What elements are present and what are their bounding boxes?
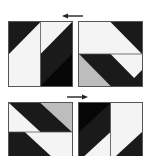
- panel-bottom-right: [78, 102, 143, 156]
- panel-bottom-left: [8, 102, 73, 156]
- panel-top-right: [78, 21, 143, 87]
- left-arrow-icon: [62, 13, 84, 19]
- right-arrow-icon: [66, 94, 88, 100]
- panel-top-left: [8, 21, 73, 87]
